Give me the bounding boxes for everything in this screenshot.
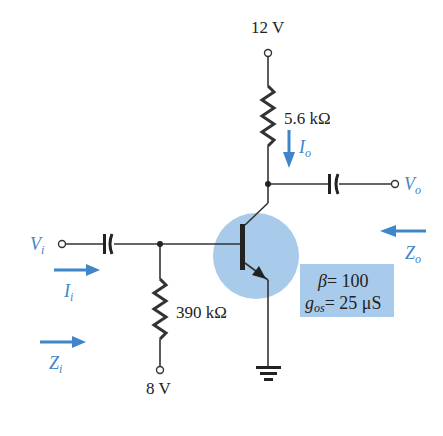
io-arrow-icon [283, 152, 295, 168]
input-capacitor [103, 234, 112, 254]
ii-label: Ii [63, 281, 73, 304]
vcc-terminal [265, 50, 272, 57]
vcc-label: 12 V [251, 18, 285, 37]
ground-icon [256, 366, 281, 381]
vo-terminal [392, 181, 399, 188]
beta-param: β= 100 [317, 271, 369, 291]
output-capacitor [328, 174, 338, 194]
transistor-highlight [213, 213, 299, 299]
rb-label: 390 kΩ [176, 303, 227, 322]
vo-label: Vo [404, 174, 421, 197]
rc-label: 5.6 kΩ [284, 109, 331, 128]
circuit-diagram: 12 V 8 V 5.6 kΩ 390 kΩ Vi Vo Io Ii Zi Zo… [0, 0, 443, 436]
zi-label: Zi [49, 353, 62, 376]
ii-arrow-icon [86, 264, 100, 276]
vbb-label: 8 V [146, 379, 171, 398]
transistor-base [240, 224, 245, 270]
vi-terminal [59, 241, 66, 248]
wires [66, 57, 391, 366]
io-label: Io [298, 137, 311, 160]
rb-resistor [154, 279, 166, 339]
base-junction [157, 241, 163, 247]
vbb-terminal [157, 367, 164, 374]
zo-arrow-icon [380, 225, 396, 237]
vi-label: Vi [30, 234, 44, 257]
zi-arrow-icon [72, 336, 86, 348]
collector-junction [265, 181, 271, 187]
rc-resistor [262, 86, 274, 146]
zo-label: Zo [405, 243, 421, 266]
